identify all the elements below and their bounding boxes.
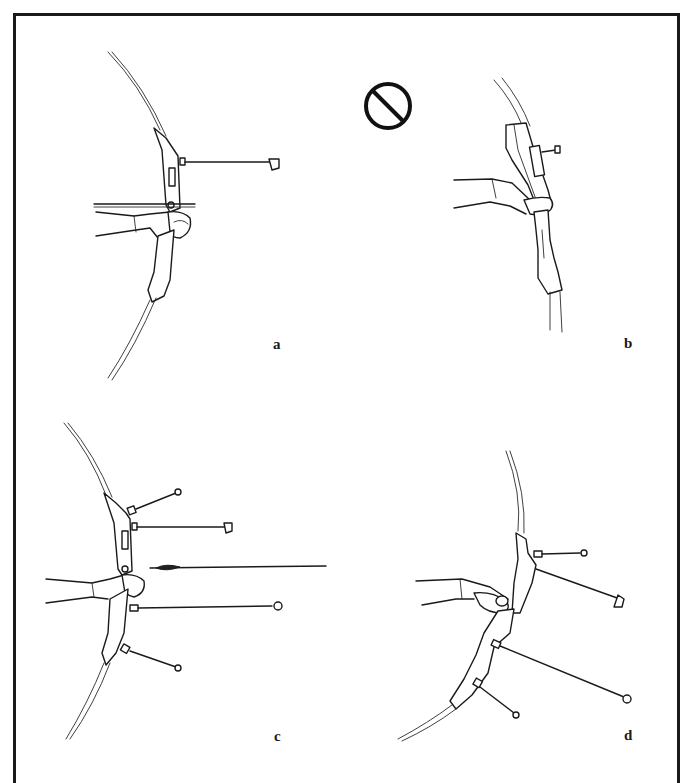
prohibited-icon	[366, 84, 410, 128]
bow-drawing-c	[0, 383, 342, 766]
panel-label-b: b	[624, 336, 632, 351]
panel-d: d	[342, 383, 684, 766]
panel-label-c: c	[274, 729, 281, 744]
bow-drawing-b	[342, 0, 684, 383]
panel-label-a: a	[273, 337, 281, 352]
panel-b: b	[342, 0, 684, 383]
panel-c: c	[0, 383, 342, 766]
bow-drawing-a	[0, 0, 342, 383]
bow-drawing-d	[342, 383, 684, 766]
panel-a: a	[0, 0, 342, 383]
panel-label-d: d	[624, 728, 632, 743]
